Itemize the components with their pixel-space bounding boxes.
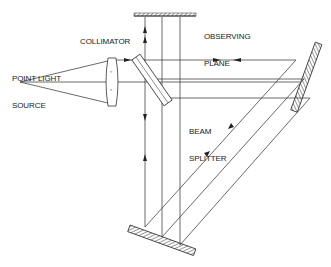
observing-label-line2: PLANE (204, 59, 251, 68)
arrow-up-icon (143, 154, 147, 161)
point-source-label: POINT LIGHT SOURCE (12, 56, 61, 119)
arrow-down-left-icon (228, 123, 234, 129)
splitter-label-line2: SPLITTER (189, 154, 226, 163)
splitter-label-line1: BEAM (189, 127, 226, 136)
collimator-lens: ≈ ≈ (106, 58, 118, 106)
beam-splitter-label: BEAM SPLITTER (189, 109, 226, 172)
point-source-label-line2: SOURCE (12, 101, 61, 110)
observing-plane-label: OBSERVING PLANE (204, 14, 251, 77)
vertical-beams (145, 17, 180, 245)
collimator-label: COLLIMATOR (80, 37, 130, 46)
diagonal-beams (145, 60, 310, 245)
arrow-up-icon (143, 36, 147, 43)
beam-splitter (132, 54, 172, 106)
point-source-label-line1: POINT LIGHT (12, 74, 61, 83)
observing-plane (134, 13, 196, 16)
arrow-down-icon (143, 114, 147, 121)
arrow-up-icon (143, 26, 147, 33)
arrow-right-icon (124, 58, 131, 62)
interferometer-diagram: ≈ ≈ (0, 0, 331, 267)
observing-label-line1: OBSERVING (204, 32, 251, 41)
